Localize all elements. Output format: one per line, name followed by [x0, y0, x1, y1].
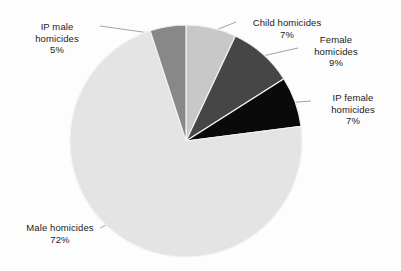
- slice-label-line2: homicides: [313, 104, 393, 116]
- slice-label-female-homicides: Female homicides 9%: [300, 34, 372, 69]
- slice-label-line1: Child homicides: [239, 17, 335, 29]
- pie-chart-figure: IP male homicides 5% Child homicides 7% …: [0, 0, 401, 271]
- slice-label-percent: 5%: [14, 44, 100, 56]
- slice-label-line1: IP female: [313, 92, 393, 104]
- slice-label-percent: 9%: [300, 57, 372, 69]
- slice-label-line2: homicides: [300, 46, 372, 58]
- slice-label-percent: 72%: [6, 234, 114, 246]
- slice-label-line1: Female: [300, 34, 372, 46]
- slice-label-ip-female-homicides: IP female homicides 7%: [313, 92, 393, 127]
- slice-label-ip-male-homicides: IP male homicides 5%: [14, 21, 100, 56]
- slice-label-line1: Male homicides: [6, 222, 114, 234]
- slice-label-male-homicides: Male homicides 72%: [6, 222, 114, 245]
- slice-label-percent: 7%: [313, 115, 393, 127]
- slice-label-line1: IP male: [14, 21, 100, 33]
- slice-label-line2: homicides: [14, 33, 100, 45]
